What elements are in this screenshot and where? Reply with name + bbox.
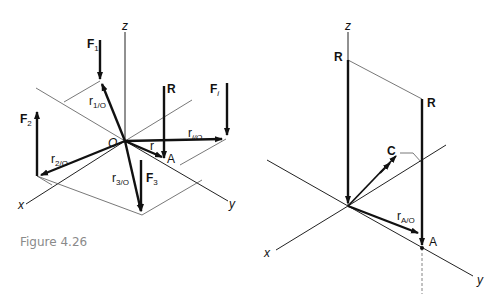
r-vector bbox=[125, 141, 162, 157]
figure-canvas: z x y O A F1 F2 F3 Fi R r1/O r2/O r3/O r… bbox=[0, 0, 499, 307]
origin-label: O bbox=[108, 136, 117, 150]
construction-line bbox=[36, 88, 125, 141]
resultant-label-shifted: R bbox=[427, 96, 436, 110]
resultant-label-left: R bbox=[167, 82, 176, 96]
construction-line bbox=[64, 81, 100, 102]
point-a-dot bbox=[420, 246, 424, 250]
f1-label: F1 bbox=[87, 37, 99, 53]
r2-label: r2/O bbox=[51, 152, 68, 168]
r3-label: r3/O bbox=[112, 171, 129, 187]
construction-line bbox=[125, 100, 192, 141]
fi-label: Fi bbox=[210, 82, 219, 98]
y-axis-label-left: y bbox=[228, 197, 236, 211]
point-a-label-right: A bbox=[429, 235, 437, 249]
z-axis-label-left: z bbox=[121, 19, 128, 33]
y-axis-back-right bbox=[348, 145, 446, 206]
figure-caption: Figure 4.26 bbox=[20, 235, 87, 249]
x-axis-right bbox=[276, 206, 348, 250]
f2-label: F2 bbox=[20, 112, 32, 128]
couple-c-inner-arrow bbox=[380, 163, 390, 173]
resultant-label-top: R bbox=[334, 50, 343, 64]
ra-label: rA/O bbox=[397, 209, 415, 225]
r1-vector bbox=[102, 84, 125, 141]
right-diagram: z x y R R C rA/O A bbox=[263, 19, 484, 294]
x-axis-back-right bbox=[267, 160, 348, 206]
r3-vector bbox=[125, 141, 141, 211]
r-label: r bbox=[150, 139, 154, 153]
construction-line bbox=[348, 60, 422, 99]
f3-label: F3 bbox=[146, 171, 158, 187]
ri-vector bbox=[125, 139, 222, 141]
left-diagram: z x y O A F1 F2 F3 Fi R r1/O r2/O r3/O r… bbox=[17, 19, 236, 249]
x-axis-label-right: x bbox=[263, 246, 271, 260]
x-axis-left bbox=[26, 141, 125, 204]
point-a-label-left: A bbox=[167, 152, 175, 166]
couple-label: C bbox=[387, 144, 396, 158]
ri-label: ri/O bbox=[188, 126, 202, 142]
r1-label: r1/O bbox=[89, 94, 106, 110]
x-axis-label-left: x bbox=[17, 198, 25, 212]
construction-line bbox=[180, 139, 226, 165]
y-axis-label-right: y bbox=[476, 273, 484, 287]
z-axis-label-right: z bbox=[344, 19, 351, 33]
